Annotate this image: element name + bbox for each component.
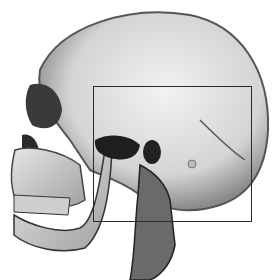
image-canvas bbox=[0, 0, 278, 280]
region-of-interest-box bbox=[93, 86, 252, 222]
teeth bbox=[14, 195, 70, 215]
